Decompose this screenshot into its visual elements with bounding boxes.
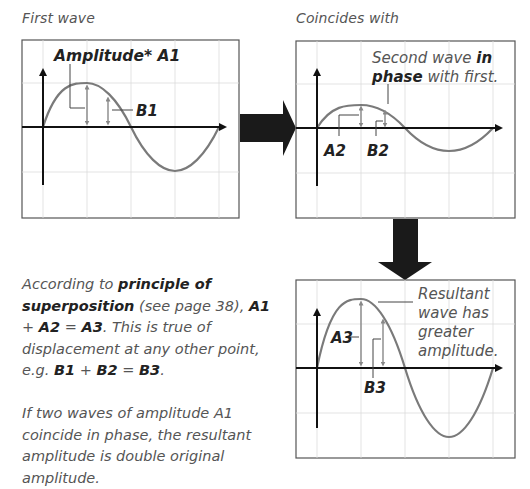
resultant-note-line3: greater (418, 323, 474, 341)
double-amplitude-note: If two waves of amplitude A1 coincide in… (22, 403, 284, 489)
second-wave-panel: A2 B2 Second wave in phase with first. (296, 41, 515, 218)
resultant-note-line4: amplitude. (418, 342, 499, 360)
in-phase-note-line2: phase with first. (371, 68, 498, 86)
down-arrow-icon (378, 219, 432, 280)
panel-frame (22, 40, 239, 218)
in-phase-note-line1: Second wave in (372, 49, 492, 67)
a2-label: A2 (323, 142, 346, 160)
b2-label: B2 (367, 142, 389, 160)
a3-label: A3 (330, 329, 353, 347)
resultant-note-line2: wave has (418, 304, 489, 322)
b3-label: B3 (364, 379, 386, 397)
right-arrow-icon (240, 100, 296, 156)
resultant-wave-panel: A3 B3 Resultant wave has greater amplitu… (296, 280, 515, 458)
superposition-explanation: According to principle of superposition … (22, 274, 284, 382)
amplitude-label: Amplitude* A1 (53, 47, 180, 65)
resultant-note-line1: Resultant (418, 285, 491, 303)
b1-label: B1 (136, 102, 158, 120)
first-wave-panel: Amplitude* A1 B1 (22, 40, 239, 218)
